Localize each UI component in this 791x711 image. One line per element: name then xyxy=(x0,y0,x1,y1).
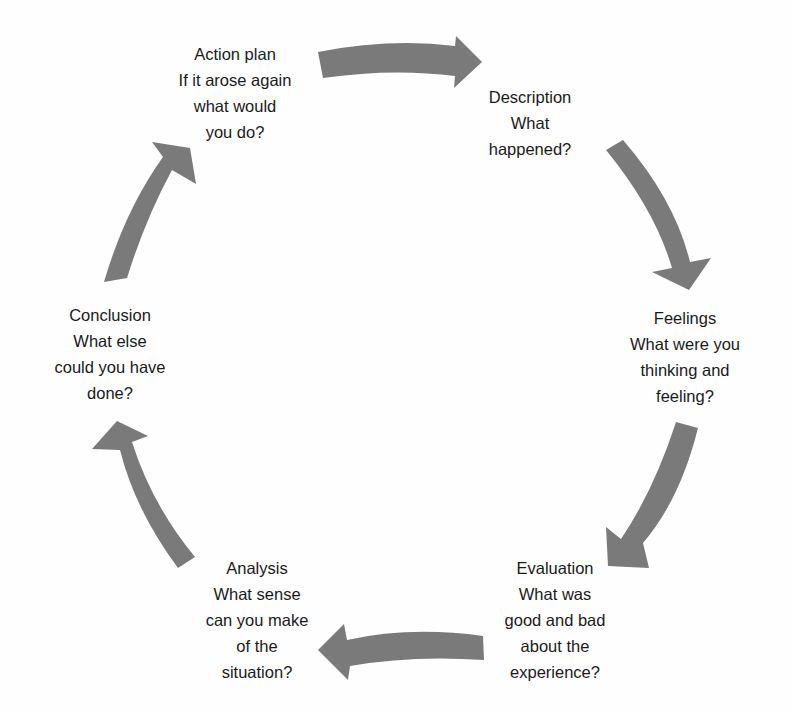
stage-question: about the xyxy=(480,633,630,659)
arrow-right-icon xyxy=(318,36,482,88)
arrow-up-right-icon xyxy=(104,142,196,282)
stage-title: Feelings xyxy=(610,305,760,331)
stage-question: can you make xyxy=(182,607,332,633)
stage-question: What sense xyxy=(182,581,332,607)
stage-question: you do? xyxy=(160,119,310,145)
stage-question: situation? xyxy=(182,659,332,685)
stage-action-plan: Action plan If it arose again what would… xyxy=(160,41,310,145)
stage-title: Analysis xyxy=(182,555,332,581)
stage-title: Conclusion xyxy=(35,302,185,328)
stage-question: What was xyxy=(480,581,630,607)
arrow-up-left-icon xyxy=(92,421,195,568)
stage-question: done? xyxy=(35,380,185,406)
stage-analysis: Analysis What sense can you make of the … xyxy=(182,555,332,685)
arrow-down-left-icon xyxy=(606,422,698,568)
stage-title: Evaluation xyxy=(480,555,630,581)
stage-feelings: Feelings What were you thinking and feel… xyxy=(610,305,760,409)
stage-question: good and bad xyxy=(480,607,630,633)
stage-title: Action plan xyxy=(160,41,310,67)
reflective-cycle-diagram: Description What happened? Feelings What… xyxy=(0,0,791,711)
stage-question: of the xyxy=(182,633,332,659)
stage-question: What else xyxy=(35,328,185,354)
stage-question: experience? xyxy=(480,659,630,685)
stage-question: feeling? xyxy=(610,383,760,409)
stage-evaluation: Evaluation What was good and bad about t… xyxy=(480,555,630,685)
stage-question: What xyxy=(465,110,595,136)
arrow-left-icon xyxy=(318,624,484,680)
stage-question: If it arose again xyxy=(160,67,310,93)
stage-question: happened? xyxy=(465,136,595,162)
stage-question: What were you xyxy=(610,331,760,357)
arrow-down-right-icon xyxy=(606,140,711,290)
stage-question: thinking and xyxy=(610,357,760,383)
stage-description: Description What happened? xyxy=(465,84,595,162)
stage-conclusion: Conclusion What else could you have done… xyxy=(35,302,185,406)
stage-question: could you have xyxy=(35,354,185,380)
stage-title: Description xyxy=(465,84,595,110)
stage-question: what would xyxy=(160,93,310,119)
